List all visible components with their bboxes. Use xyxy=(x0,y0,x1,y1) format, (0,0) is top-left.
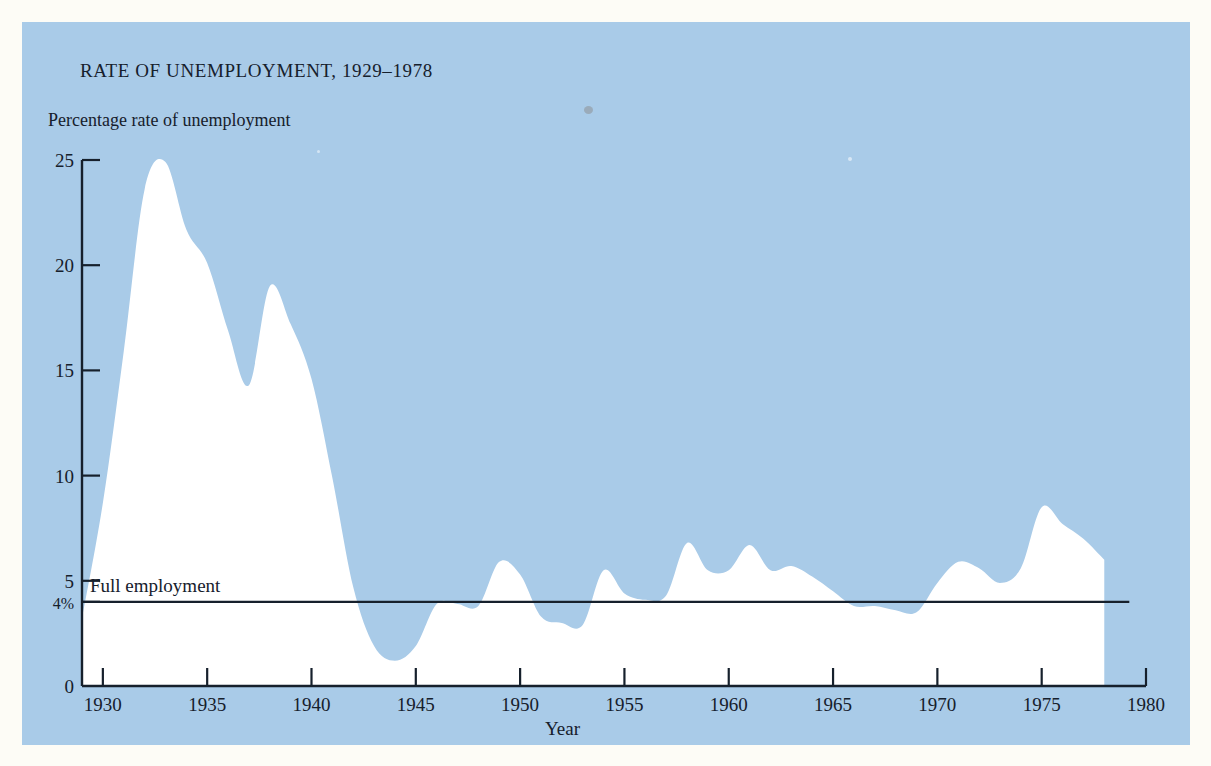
x-tick-label: 1975 xyxy=(1023,694,1061,715)
y-tick-label: 25 xyxy=(55,150,74,171)
x-tick-label: 1960 xyxy=(710,694,748,715)
y-tick-label: 5 xyxy=(65,571,75,592)
x-tick-label: 1980 xyxy=(1127,694,1165,715)
x-tick-label: 1970 xyxy=(918,694,956,715)
x-axis-label: Year xyxy=(545,718,580,740)
full-employment-label: Full employment xyxy=(90,575,220,597)
y-tick-label: 10 xyxy=(55,466,74,487)
figure-page: RATE OF UNEMPLOYMENT, 1929–1978 Percenta… xyxy=(0,0,1211,766)
x-tick-label: 1965 xyxy=(814,694,852,715)
unemployment-area xyxy=(82,159,1104,686)
y-tick-label: 4% xyxy=(53,595,74,612)
y-tick-label: 20 xyxy=(55,255,74,276)
x-tick-label: 1950 xyxy=(501,694,539,715)
y-tick-label: 15 xyxy=(55,360,74,381)
x-tick-label: 1935 xyxy=(188,694,226,715)
y-tick-label: 0 xyxy=(65,676,75,697)
chart-plot: 04%510152025 193019351940194519501955196… xyxy=(0,0,1211,766)
x-tick-label: 1930 xyxy=(84,694,122,715)
x-tick-label: 1955 xyxy=(605,694,643,715)
x-tick-label: 1940 xyxy=(292,694,330,715)
x-tick-label: 1945 xyxy=(397,694,435,715)
